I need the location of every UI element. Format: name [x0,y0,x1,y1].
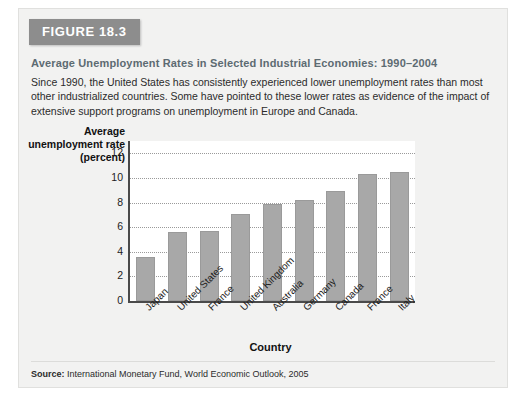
source-line: Source: International Monetary Fund, Wor… [31,369,309,379]
y-axis-tick-labels: 024681012 [89,141,123,301]
y-tick-label: 10 [93,171,123,183]
y-tick-label: 0 [93,294,123,306]
figure-badge: FIGURE 18.3 [29,19,140,45]
source-divider [31,361,495,362]
y-tick-label: 12 [93,146,123,158]
figure-card: FIGURE 18.3 Average Unemployment Rates i… [18,8,508,388]
y-tick-label: 8 [93,196,123,208]
bar [390,172,409,301]
y-tick-label: 2 [93,269,123,281]
bar [358,174,377,301]
source-text: International Monetary Fund, World Econo… [67,369,308,379]
x-axis-title: Country [128,341,413,353]
figure-title: Average Unemployment Rates in Selected I… [31,57,497,69]
bar [168,232,187,301]
y-tick-label: 6 [93,220,123,232]
bar [231,214,250,301]
y-tick-label: 4 [93,245,123,257]
bar-chart: Average unemployment rate (percent) 0246… [19,125,509,357]
source-label: Source: [31,369,65,379]
figure-description: Since 1990, the United States has consis… [31,75,493,118]
